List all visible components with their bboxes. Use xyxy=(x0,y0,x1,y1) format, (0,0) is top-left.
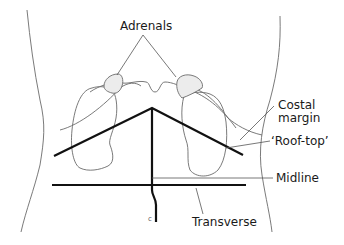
label-midline: Midline xyxy=(276,171,319,185)
left-adrenal xyxy=(104,74,123,93)
adrenal-leader-right xyxy=(143,35,176,77)
roof-top-leader xyxy=(226,141,270,148)
costal-margin-leader xyxy=(240,106,274,140)
label-transverse: Transverse xyxy=(192,215,257,229)
label-costal-margin-1: Costal xyxy=(278,98,315,112)
label-adrenals: Adrenals xyxy=(120,19,172,33)
costal-margin-left xyxy=(60,83,141,130)
transverse-leader xyxy=(196,188,203,214)
adrenal-leader-left xyxy=(117,35,143,75)
coccyx-mark: c xyxy=(148,215,152,223)
label-costal-margin-2: margin xyxy=(278,111,320,125)
label-roof-top: ‘Roof-top’ xyxy=(271,134,329,148)
roof-top-incision xyxy=(54,108,243,156)
torso-left-outline xyxy=(21,10,44,232)
midline-incision xyxy=(152,108,156,222)
